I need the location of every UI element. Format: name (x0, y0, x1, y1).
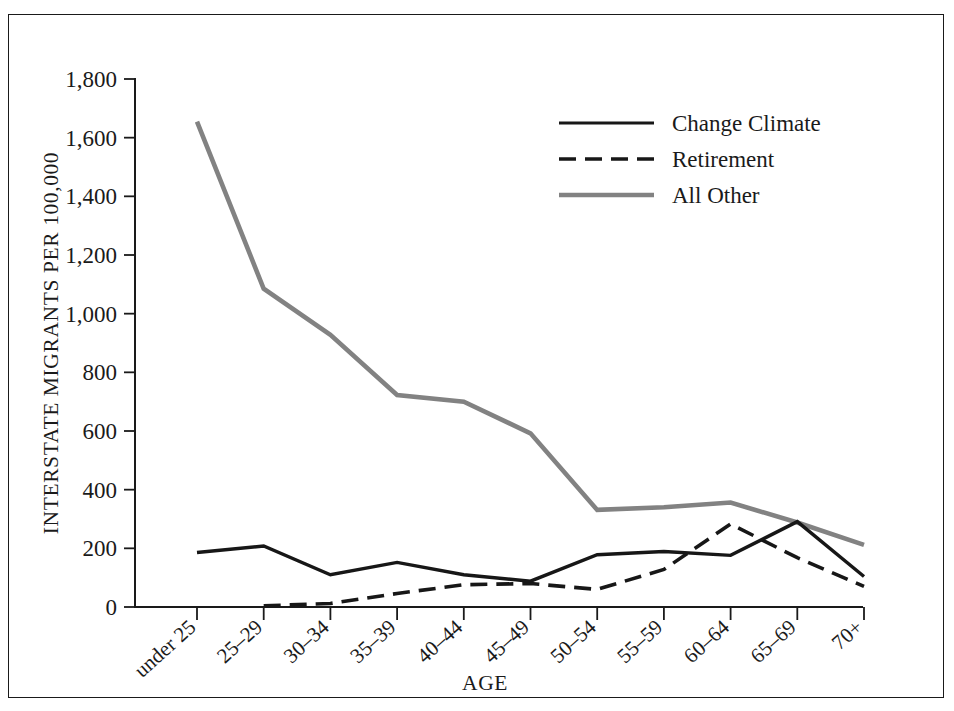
data-series (197, 122, 864, 606)
y-axis-tick-label: 0 (106, 595, 118, 620)
y-axis-tick-label: 200 (83, 536, 118, 561)
x-axis-tick-label: 35–39 (345, 615, 400, 668)
x-axis-tick-label: 45–49 (479, 615, 534, 668)
x-axis-tick-label: 40–44 (412, 615, 467, 668)
y-axis-tick-label: 1,600 (65, 126, 117, 151)
y-axis-tick-label: 600 (83, 419, 118, 444)
x-axis-tick-label: 70+ (827, 615, 867, 655)
y-axis-tick-label: 1,800 (65, 67, 117, 92)
x-axis-tick-label: 60–64 (679, 615, 734, 668)
y-axis-tick-label: 1,000 (65, 302, 117, 327)
x-axis-tick-label: 25–29 (212, 615, 267, 668)
x-axis-tick-label: 50–54 (545, 615, 600, 668)
legend-label[interactable]: Retirement (672, 147, 775, 172)
legend-label[interactable]: All Other (672, 183, 760, 208)
y-axis-tick-label: 800 (83, 360, 118, 385)
series-line-change-climate (197, 522, 864, 582)
y-axis-tick-label: 400 (83, 478, 118, 503)
legend-label[interactable]: Change Climate (672, 111, 821, 136)
series-line-retirement (264, 524, 864, 606)
chart-legend[interactable]: Change ClimateRetirementAll Other (559, 111, 821, 208)
x-axis-tick-label: 30–34 (279, 615, 334, 668)
x-axis-title: AGE (462, 671, 508, 695)
y-axis-title: INTERSTATE MIGRANTS PER 100,000 (39, 152, 63, 534)
y-axis-tick-label: 1,200 (65, 243, 117, 268)
figure-root: 02004006008001,0001,2001,4001,6001,800un… (0, 0, 954, 711)
series-line-all-other (197, 122, 864, 545)
x-axis-tick-label: 65–69 (746, 615, 801, 668)
x-axis-tick-label: 55–59 (612, 615, 667, 668)
y-axis-tick-label: 1,400 (65, 184, 117, 209)
line-chart: 02004006008001,0001,2001,4001,6001,800un… (0, 0, 954, 711)
x-axis-tick-label: under 25 (129, 615, 200, 682)
